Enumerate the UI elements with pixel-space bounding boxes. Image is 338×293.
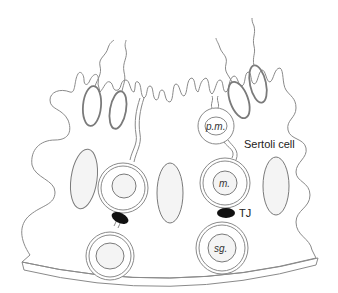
label-sertoli-cell: Sertoli cell [244,138,295,150]
label-sg: sg. [214,243,227,254]
tight-junction-right [217,208,235,218]
sertoli-cell-diagram: p.m. Sertoli cell m. TJ sg. [0,0,338,293]
label-tj: TJ [239,207,251,219]
spermatid-4 [246,18,270,104]
spermatid-2 [107,40,129,130]
basement-membrane [22,258,318,286]
label-m: m. [219,178,230,189]
spermatids [81,18,269,130]
label-pm: p.m. [205,121,225,132]
